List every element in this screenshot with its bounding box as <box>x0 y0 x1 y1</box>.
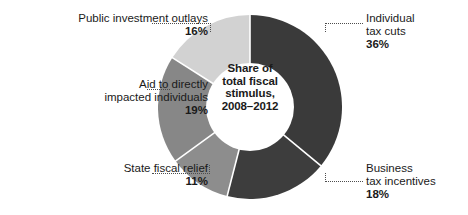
callout-public-investment-value: 16% <box>8 25 208 38</box>
leader-line-individual-tax-cuts <box>325 23 363 24</box>
chart-page: Share of total fiscal stimulus, 2008–201… <box>0 0 468 215</box>
donut-center-hole <box>206 63 294 151</box>
callout-individual-tax-cuts: Individual tax cuts 36% <box>366 12 466 52</box>
callout-aid-label-line-1: Aid to directly <box>18 78 208 91</box>
leader-line-public-investment-tick <box>210 23 211 32</box>
leader-line-individual-tax-cuts-tick <box>325 23 326 32</box>
callout-business-label-line-1: Business <box>366 162 466 175</box>
callout-individual-label-line-2: tax cuts <box>366 25 466 38</box>
leader-line-business-incentives-tick <box>325 173 326 182</box>
callout-aid-label-line-2: impacted individuals <box>18 91 208 104</box>
leader-line-state-relief-tick <box>209 165 210 174</box>
callout-individual-value: 36% <box>366 38 466 51</box>
callout-public-investment-label: Public investment outlays <box>8 12 208 25</box>
callout-aid-value: 19% <box>18 104 208 117</box>
callout-state-relief-label: State fiscal relief <box>28 162 208 175</box>
callout-state-relief-value: 11% <box>28 175 208 188</box>
callout-individual-label-line-1: Individual <box>366 12 466 25</box>
callout-business-value: 18% <box>366 188 466 201</box>
callout-business-label-line-2: tax incentives <box>366 175 466 188</box>
callout-aid-to-directly-impacted-individuals: Aid to directly impacted individuals 19% <box>18 78 208 118</box>
leader-line-business-incentives <box>325 181 363 182</box>
callout-public-investment-outlays: Public investment outlays 16% <box>8 12 208 38</box>
callout-state-fiscal-relief: State fiscal relief 11% <box>28 162 208 188</box>
callout-business-tax-incentives: Business tax incentives 18% <box>366 162 466 202</box>
